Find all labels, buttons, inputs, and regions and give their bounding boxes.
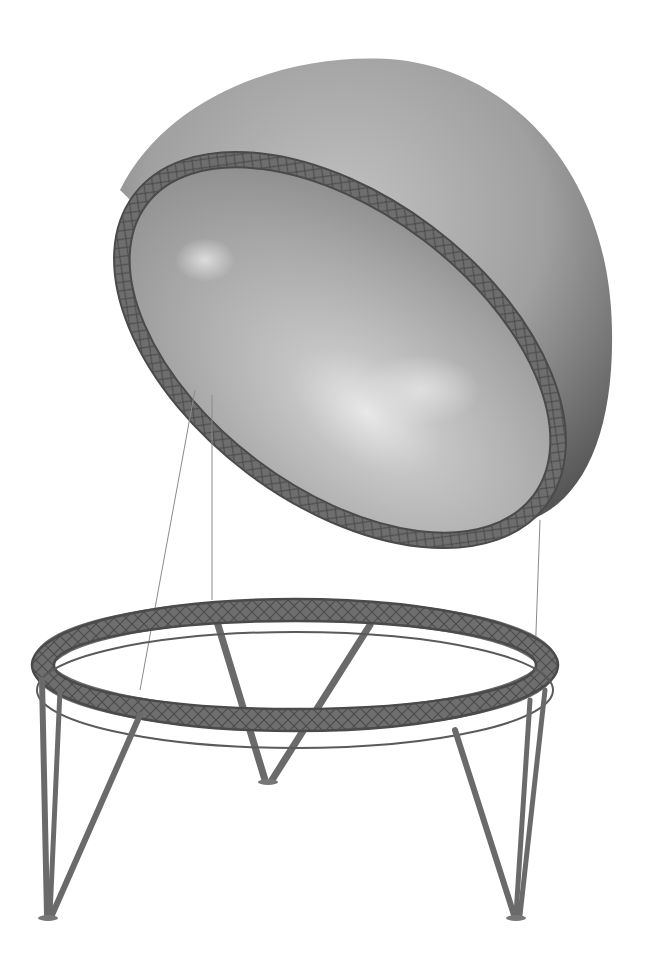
dome-truss-illustration [0,0,653,968]
back-leg [215,615,370,785]
base-truss-ring [32,599,558,748]
